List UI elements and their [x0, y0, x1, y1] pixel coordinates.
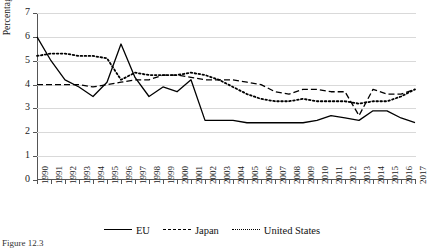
x-tick-label: 1997 [139, 166, 148, 184]
x-tick-label: 2008 [293, 166, 302, 184]
plot-area [37, 13, 416, 180]
x-tick-label: 1991 [55, 166, 64, 184]
x-tick-label: 1990 [41, 166, 50, 184]
x-tick-label: 2014 [377, 166, 386, 184]
series-lines [37, 13, 416, 180]
x-tick-label: 1993 [83, 166, 92, 184]
x-tick-label: 2013 [363, 166, 372, 184]
x-tick-label: 1996 [125, 166, 134, 184]
legend-item-japan: Japan [163, 225, 219, 236]
x-tick-label: 2011 [335, 166, 344, 184]
x-tick-label: 2005 [251, 166, 260, 184]
x-tick-label: 2017 [419, 166, 428, 184]
x-axis-tick-labels: 1990199119921993199419951996199719981999… [37, 182, 416, 224]
chart-legend: EU Japan United States [0, 222, 424, 238]
legend-item-united-states: United States [232, 225, 320, 236]
x-tick-label: 2003 [223, 166, 232, 184]
x-tick-label: 2002 [209, 166, 218, 184]
figure-caption: Figure 12.3 [2, 238, 44, 248]
x-tick-label: 2000 [181, 166, 190, 184]
x-tick-label: 1998 [153, 166, 162, 184]
y-tick-label: 7 [0, 7, 30, 17]
y-tick-label: 6 [0, 31, 30, 41]
x-tick-label: 1994 [97, 166, 106, 184]
x-tick-label: 1995 [111, 166, 120, 184]
legend-swatch-dotted-icon [232, 226, 260, 234]
x-tick-label: 2006 [265, 166, 274, 184]
x-tick-label: 2010 [321, 166, 330, 184]
x-tick-label: 2016 [405, 166, 414, 184]
x-tick-label: 2015 [391, 166, 400, 184]
x-tick-label: 1999 [167, 166, 176, 184]
legend-label-united-states: United States [264, 225, 320, 236]
y-tick-label: 0 [0, 174, 30, 184]
legend-label-japan: Japan [195, 225, 219, 236]
legend-swatch-dashed-icon [163, 226, 191, 234]
x-tick-label: 2007 [279, 166, 288, 184]
x-tick-label: 2012 [349, 166, 358, 184]
x-tick-label: 2001 [195, 166, 204, 184]
y-tick-label: 2 [0, 126, 30, 136]
x-tick-label: 2004 [237, 166, 246, 184]
y-tick-label: 3 [0, 102, 30, 112]
legend-label-eu: EU [136, 225, 150, 236]
legend-swatch-solid-icon [104, 226, 132, 234]
y-tick-label: 1 [0, 150, 30, 160]
legend-item-eu: EU [104, 225, 150, 236]
y-tick-label: 5 [0, 55, 30, 65]
y-tick-label: 4 [0, 79, 30, 89]
x-tick-label: 1992 [69, 166, 78, 184]
x-tick-label: 2009 [307, 166, 316, 184]
